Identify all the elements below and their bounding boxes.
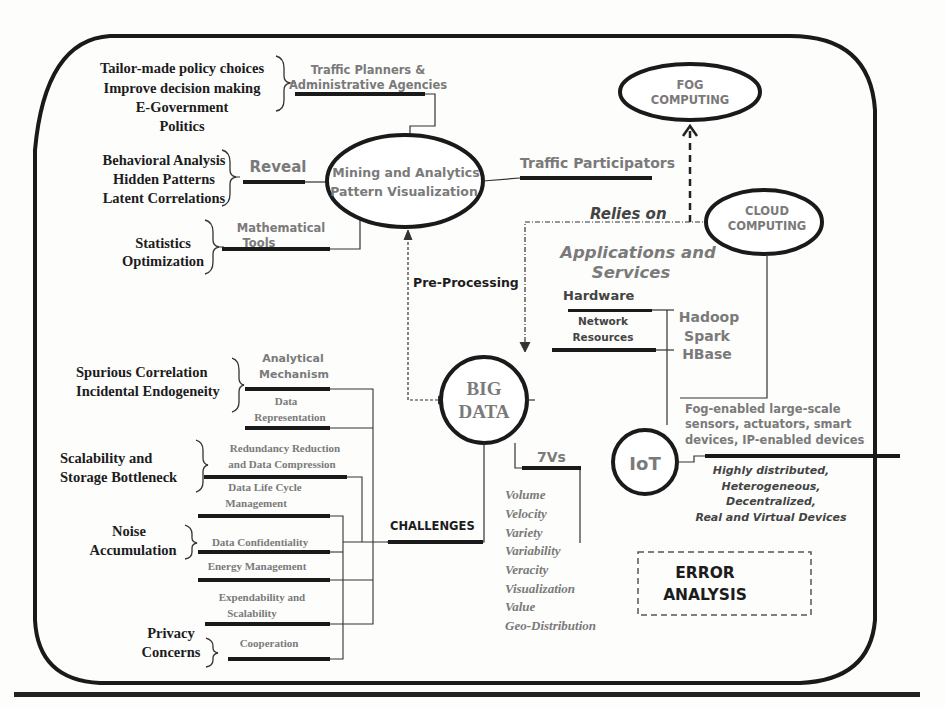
policy-item: Tailor-made policy choices <box>100 60 264 76</box>
network-label: Resources <box>573 331 634 343</box>
math-item: Optimization <box>122 253 204 269</box>
iot-trait: Highly distributed, <box>713 464 830 477</box>
tool-hadoop: Hadoop <box>679 309 739 325</box>
error-label: ANALYSIS <box>663 586 747 604</box>
challenge-group: Storage Bottleneck <box>60 469 178 485</box>
relies-on-label: Relies on <box>590 205 667 223</box>
challenge-group: Accumulation <box>90 542 177 558</box>
reveal-item: Hidden Patterns <box>113 171 215 187</box>
challenge-item: Representation <box>254 411 325 423</box>
pre-processing-connector <box>408 232 444 400</box>
brace-icon <box>206 638 218 667</box>
tool-spark: Spark <box>684 328 730 344</box>
challenge-group: Incidental Endogeneity <box>76 383 221 399</box>
challenge-item: Cooperation <box>240 637 299 649</box>
big-data-node <box>441 357 527 443</box>
challenge-item: and Data Compression <box>228 458 335 470</box>
traffic-participators-label: Traffic Participators <box>520 155 675 171</box>
iot-label: IoT <box>629 453 661 474</box>
math-item: Statistics <box>135 235 191 251</box>
mining-label: Mining and Analytics <box>332 165 479 180</box>
fog-label: COMPUTING <box>651 93 730 107</box>
brace-icon <box>185 525 197 559</box>
bottom-rule <box>14 692 920 697</box>
iot-device-text: Fog-enabled large-scale <box>685 402 841 416</box>
reveal-item: Behavioral Analysis <box>103 152 226 168</box>
challenge-item: Data Confidentiality <box>212 536 309 548</box>
v-item: Veracity <box>505 562 549 577</box>
iot-device-text: sensors, actuators, smart <box>685 417 852 431</box>
fog-computing-node <box>620 64 760 120</box>
v-item: Visualization <box>505 581 575 596</box>
apps-title: Applications and <box>558 243 716 262</box>
brace-icon <box>205 220 219 274</box>
challenge-group: Privacy <box>147 625 195 641</box>
iot-device-text: devices, IP-enabled devices <box>685 433 865 447</box>
v-item: Value <box>505 599 536 614</box>
v-item: Velocity <box>505 506 547 521</box>
brace-icon <box>232 358 244 412</box>
challenge-group: Scalability and <box>60 450 152 466</box>
v-item: Variety <box>505 525 543 540</box>
big-data-label: DATA <box>458 401 509 422</box>
policy-item: E-Government <box>136 99 229 115</box>
error-label: ERROR <box>675 564 735 582</box>
pre-processing-label: Pre-Processing <box>413 275 519 290</box>
reveal-label: Reveal <box>250 158 307 176</box>
big-data-diagram: Tailor-made policy choices Improve decis… <box>0 0 945 709</box>
challenge-item: Energy Management <box>208 560 307 572</box>
v-item: Variability <box>505 543 561 558</box>
policy-item: Politics <box>159 118 204 134</box>
math-tools-label: Mathematical <box>237 221 325 235</box>
big-data-label: BIG <box>467 378 502 399</box>
traffic-planners-label: Traffic Planners & <box>311 63 426 77</box>
cloud-label: COMPUTING <box>728 219 807 233</box>
reveal-item: Latent Correlations <box>103 190 226 206</box>
fog-label: FOG <box>676 78 703 92</box>
v-item: Volume <box>505 487 546 502</box>
hardware-label: Hardware <box>563 288 635 303</box>
policy-item: Improve decision making <box>104 80 262 96</box>
challenge-item: Analytical <box>262 352 323 365</box>
iot-trait: Decentralized, <box>726 495 816 508</box>
challenge-group: Noise <box>112 523 146 539</box>
challenge-item: Data <box>275 395 298 407</box>
challenge-item: Redundancy Reduction <box>230 442 340 454</box>
apps-title: Services <box>592 263 671 282</box>
challenge-item: Data Life Cycle <box>228 481 301 493</box>
challenge-item: Mechanism <box>259 368 329 381</box>
iot-trait: Real and Virtual Devices <box>695 511 847 524</box>
iot-trait: Heterogeneous, <box>721 480 820 493</box>
challenges-label: CHALLENGES <box>390 519 475 533</box>
challenge-item: Scalability <box>227 607 277 619</box>
v-item: Geo-Distribution <box>505 618 596 633</box>
tool-hbase: HBase <box>682 346 732 362</box>
mining-analytics-node <box>327 135 483 227</box>
mining-label: Pattern Visualization <box>330 184 478 199</box>
policy-group: Tailor-made policy choices Improve decis… <box>100 60 264 134</box>
seven-vs-label: 7Vs <box>537 449 566 465</box>
traffic-planners-label: Administrative Agencies <box>289 78 447 92</box>
challenge-item: Expendability and <box>219 591 306 603</box>
brace-icon <box>196 440 208 492</box>
challenge-group: Spurious Correlation <box>76 364 207 380</box>
error-analysis-box <box>638 552 811 615</box>
cloud-label: CLOUD <box>745 204 789 218</box>
challenge-item: Management <box>225 497 287 509</box>
challenge-group: Concerns <box>142 644 201 660</box>
network-label: Network <box>578 315 629 327</box>
